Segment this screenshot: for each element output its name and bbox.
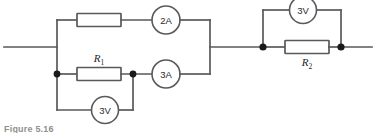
resistor-r1 (77, 68, 121, 81)
junction-node-r2-left (259, 43, 266, 50)
voltmeter-3v-left-label: 3V (99, 105, 111, 116)
circuit-diagram-figure: 2A R1 3A 3V 3V R2 (0, 0, 376, 133)
voltmeter-3v-right-label: 3V (297, 5, 309, 16)
figure-caption: Figure 5.16 (4, 124, 54, 133)
junction-node-r2-right (337, 43, 344, 50)
resistor-r2-label: R2 (301, 56, 313, 71)
resistor-r1-label: R1 (93, 52, 105, 67)
junction-node-left-lower (54, 71, 61, 78)
circuit-schematic: 2A R1 3A 3V 3V R2 (0, 0, 376, 133)
ammeter-3a-label: 3A (160, 69, 172, 80)
ammeter-2a-label: 2A (160, 15, 172, 26)
resistor-r2 (285, 41, 329, 54)
resistor-top-branch (77, 14, 121, 27)
junction-node-mid-lower (130, 71, 137, 78)
